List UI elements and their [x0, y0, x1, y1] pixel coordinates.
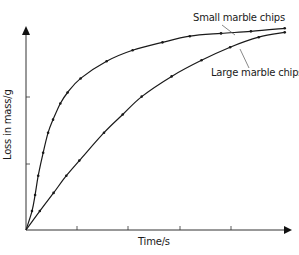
- data-point-small-marble-chips: [47, 131, 50, 134]
- data-point-large-marble-chips: [257, 36, 260, 39]
- y-axis-label: Loss in mass/g: [2, 89, 13, 160]
- data-point-small-marble-chips: [220, 32, 223, 35]
- data-point-large-marble-chips: [65, 174, 68, 177]
- data-point-small-marble-chips: [37, 174, 40, 177]
- data-point-small-marble-chips: [34, 194, 37, 197]
- series-line-small-marble-chips: [26, 28, 285, 230]
- data-point-large-marble-chips: [38, 210, 41, 213]
- data-point-small-marble-chips: [161, 41, 164, 44]
- x-axis-label: Time/s: [138, 236, 170, 247]
- data-point-small-marble-chips: [189, 35, 192, 38]
- data-point-small-marble-chips: [79, 77, 82, 80]
- data-point-small-marble-chips: [52, 118, 55, 121]
- data-point-large-marble-chips: [170, 75, 173, 78]
- series-layer: [26, 27, 286, 230]
- data-point-small-marble-chips: [66, 91, 69, 94]
- axes: [22, 26, 292, 234]
- data-point-large-marble-chips: [140, 95, 143, 98]
- data-point-small-marble-chips: [250, 30, 253, 33]
- data-point-large-marble-chips: [78, 159, 81, 162]
- data-point-large-marble-chips: [52, 192, 55, 195]
- chart-canvas: [0, 0, 299, 255]
- data-point-large-marble-chips: [283, 31, 286, 34]
- data-point-large-marble-chips: [121, 113, 124, 116]
- y-axis-arrow-icon: [22, 26, 30, 35]
- annotation-large-marble-chips: Large marble chips: [211, 67, 299, 78]
- data-point-small-marble-chips: [59, 102, 62, 105]
- x-axis-arrow-icon: [284, 226, 292, 234]
- data-point-small-marble-chips: [283, 27, 286, 30]
- data-point-large-marble-chips: [229, 46, 232, 49]
- data-point-small-marble-chips: [31, 210, 34, 213]
- data-point-large-marble-chips: [200, 59, 203, 62]
- data-point-small-marble-chips: [42, 151, 45, 154]
- annotation-small-marble-chips: Small marble chips: [193, 12, 285, 23]
- data-point-small-marble-chips: [131, 49, 134, 52]
- leader-large-chips: [240, 49, 249, 68]
- data-point-small-marble-chips: [105, 60, 108, 63]
- data-point-large-marble-chips: [103, 131, 106, 134]
